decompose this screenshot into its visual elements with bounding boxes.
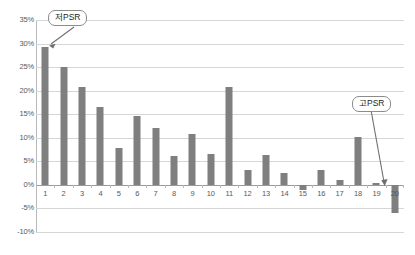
bar-slot: [91, 20, 109, 232]
bar[interactable]: [60, 67, 67, 185]
bar-slot: [294, 20, 312, 232]
bar-slot: [220, 20, 238, 232]
bar[interactable]: [78, 87, 85, 185]
bar-slot: [238, 20, 256, 232]
bar[interactable]: [42, 47, 49, 185]
y-axis-tick-label: -10%: [2, 228, 34, 236]
y-axis-tick-label: -5%: [2, 204, 34, 212]
bar-slot: [386, 20, 404, 232]
x-axis-tickmark: [165, 185, 166, 188]
gridline-minus10: [36, 232, 404, 233]
x-axis-tickmark: [220, 185, 221, 188]
x-axis-tick-label: 19: [367, 190, 385, 198]
x-axis-tickmark: [202, 185, 203, 188]
x-axis-tickmark: [257, 185, 258, 188]
bar[interactable]: [262, 155, 269, 185]
bar-slot: [110, 20, 128, 232]
x-axis-tickmark: [238, 185, 239, 188]
x-axis-tick-label: 20: [386, 190, 404, 198]
bar-slot: [275, 20, 293, 232]
plot-area: [36, 20, 404, 232]
y-axis-tick-label: 0%: [2, 181, 34, 189]
x-axis-tick-label: 15: [294, 190, 312, 198]
bar-slot: [349, 20, 367, 232]
bar-slot: [202, 20, 220, 232]
x-axis-tickmark: [403, 185, 404, 188]
bar[interactable]: [97, 107, 104, 185]
callout-low-psr[interactable]: 저PSR: [48, 10, 87, 26]
x-axis-tickmark: [183, 185, 184, 188]
bar-series: [36, 20, 404, 232]
x-axis-tick-label: 9: [183, 190, 201, 198]
x-axis-tick-label: 5: [110, 190, 128, 198]
bar[interactable]: [226, 87, 233, 185]
x-axis-tickmark: [36, 185, 37, 188]
callout-high-psr-label: 고PSR: [359, 98, 384, 108]
callout-high-psr[interactable]: 고PSR: [352, 96, 391, 112]
bar-slot: [183, 20, 201, 232]
x-axis-tickmark: [312, 185, 313, 188]
y-axis-tick-label: 5%: [2, 157, 34, 165]
x-axis-tick-label: 6: [128, 190, 146, 198]
bar[interactable]: [244, 170, 251, 185]
x-axis-tick-label: 10: [202, 190, 220, 198]
x-axis-tick-label: 4: [91, 190, 109, 198]
x-axis-tick-label: 18: [349, 190, 367, 198]
bar-slot: [312, 20, 330, 232]
bar-slot: [330, 20, 348, 232]
bar[interactable]: [189, 134, 196, 185]
y-axis-tick-label: 10%: [2, 134, 34, 142]
x-axis-tick-label: 17: [330, 190, 348, 198]
x-axis-tickmark: [146, 185, 147, 188]
bar[interactable]: [281, 173, 288, 185]
x-axis-tick-label: 14: [275, 190, 293, 198]
y-axis-tick-label: 20%: [2, 87, 34, 95]
bar[interactable]: [152, 128, 159, 185]
x-axis-tickmark: [386, 185, 387, 188]
y-axis-tick-label: 15%: [2, 110, 34, 118]
x-axis-tick-label: 13: [257, 190, 275, 198]
x-axis-tick-label: 11: [220, 190, 238, 198]
bar-slot: [36, 20, 54, 232]
x-axis-tick-label: 2: [54, 190, 72, 198]
x-axis-tickmark: [110, 185, 111, 188]
bar[interactable]: [207, 154, 214, 185]
y-axis-tick-label: 25%: [2, 63, 34, 71]
chart-screenshot: 35% 30% 25% 20% 15% 10% 5% 0% -5% -10% 1…: [0, 0, 415, 255]
x-axis-tick-label: 16: [312, 190, 330, 198]
bar-slot: [257, 20, 275, 232]
bar[interactable]: [134, 116, 141, 185]
x-axis-tickmark: [275, 185, 276, 188]
bar[interactable]: [318, 170, 325, 185]
x-axis-tickmark: [73, 185, 74, 188]
x-axis-tickmark: [367, 185, 368, 188]
x-axis-tick-label: 1: [36, 190, 54, 198]
bar[interactable]: [354, 137, 361, 185]
x-axis-tickmark: [128, 185, 129, 188]
bar-slot: [128, 20, 146, 232]
x-axis-tickmark: [330, 185, 331, 188]
bar[interactable]: [170, 156, 177, 185]
x-axis-tickmark: [91, 185, 92, 188]
x-axis-tick-label: 7: [146, 190, 164, 198]
bar[interactable]: [115, 148, 122, 185]
callout-low-psr-label: 저PSR: [55, 12, 80, 22]
x-axis-tick-label: 3: [73, 190, 91, 198]
x-axis-tickmark: [349, 185, 350, 188]
bar-slot: [54, 20, 72, 232]
x-axis-tickmark: [54, 185, 55, 188]
y-axis-tick-label: 30%: [2, 40, 34, 48]
bar[interactable]: [373, 183, 380, 184]
bar-slot: [367, 20, 385, 232]
y-axis-tick-label: 35%: [2, 16, 34, 24]
x-axis-tick-label: 8: [165, 190, 183, 198]
x-axis-tick-label: 12: [238, 190, 256, 198]
bar-slot: [146, 20, 164, 232]
bar-slot: [165, 20, 183, 232]
bar-slot: [73, 20, 91, 232]
bar[interactable]: [336, 180, 343, 185]
x-axis-tickmark: [294, 185, 295, 188]
